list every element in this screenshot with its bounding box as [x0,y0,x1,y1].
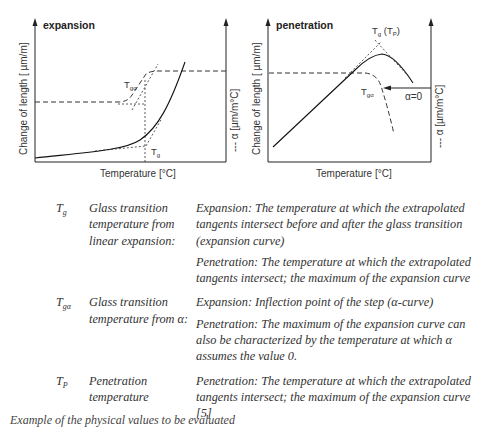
term-name: Glass transition temperature from α: [89,294,196,369]
tga-label: Tgα [361,86,374,98]
description-penetration: Penetration: The temperature at which th… [196,373,486,422]
alpha-zero-label: α=0 [405,91,423,102]
x-axis-label: Temperature [°C] [316,168,392,179]
description-penetration: Penetration: The maximum of the expansio… [196,316,486,365]
penetration-title: penetration [276,19,333,31]
penetration-diagram: penetration Change of length [ µm/m] ---… [245,0,487,190]
expansion-title: expansion [43,19,95,31]
description-expansion: Expansion: Inflection point of the step … [196,294,486,310]
y-axis-right-label: --- α [µm/m°C] [434,84,445,148]
x-axis-label: Temperature [°C] [100,168,176,179]
table-row: Tg Glass transition temperature from lin… [56,200,486,291]
description-expansion: Expansion: The temperature at which the … [196,200,486,249]
term-description: Expansion: Inflection point of the step … [196,294,486,369]
figure-caption: Example of the physical values to be eva… [10,413,235,428]
tg-label: Tg [151,146,160,158]
symbol: Tgα [56,294,89,369]
description-penetration: Penetration: The temperature at which th… [196,254,486,287]
term-description: Expansion: The temperature at which the … [196,200,486,291]
tga-label: Tgα [124,79,137,91]
term-name: Glass transition temperature from linear… [89,200,196,291]
table-row: Tgα Glass transition temperature from α:… [56,294,486,369]
term-description: Penetration: The temperature at which th… [196,373,486,427]
tg-tp-label: Tg (TP) [372,25,400,37]
expansion-diagram: expansion Change of length [ µm/m] --- α… [0,0,245,190]
y-axis-left-label: Change of length [ µm/m] [18,42,29,155]
definitions-table: Tg Glass transition temperature from lin… [56,200,486,427]
y-axis-right-label: --- α [µm/m°C] [229,88,240,152]
symbol: Tg [56,200,89,291]
y-axis-left-label: Change of length [ µm/m] [251,42,262,155]
